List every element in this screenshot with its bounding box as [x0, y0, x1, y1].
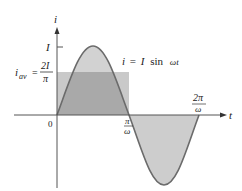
average-denominator: π [43, 73, 49, 84]
average-numerator: 2I [41, 60, 50, 71]
average-lhs-subscript: av [19, 72, 27, 81]
origin-label: 0 [48, 119, 53, 129]
y-axis-arrow-icon [55, 27, 60, 34]
negative-half-cycle-fill [129, 115, 199, 185]
x-axis-label: t [229, 109, 233, 121]
tick-2pi-denominator: ω [195, 104, 201, 114]
average-lhs: i [15, 66, 18, 78]
tick-pi-numerator: π [125, 116, 130, 126]
tick-2pi-numerator: 2π [193, 92, 204, 103]
curve-equation: i = I sin ωt [122, 55, 179, 67]
y-axis-label: i [54, 13, 57, 25]
average-equals: = [32, 67, 38, 78]
sine-average-diagram: i t 0 I i av = 2I π π ω 2π ω i = I sin ω… [0, 0, 242, 191]
tick-pi-denominator: ω [124, 126, 130, 136]
x-axis-arrow-icon [220, 113, 227, 118]
peak-label: I [45, 41, 51, 53]
